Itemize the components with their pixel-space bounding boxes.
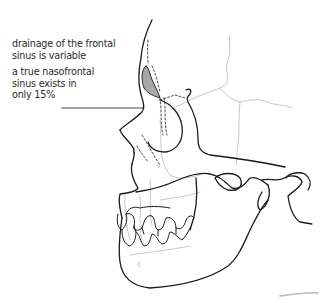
annotation-frontal-drainage: drainage of the frontal sinus is variabl…	[12, 38, 115, 61]
annotation-line: only 15%	[12, 89, 94, 101]
annotation-nasofrontal-sinus: a true nasofrontal sinus exists in only …	[12, 66, 94, 101]
annotation-line: drainage of the frontal	[12, 38, 115, 50]
annotation-line: sinus is variable	[12, 50, 115, 62]
annotation-line: a true nasofrontal	[12, 66, 94, 78]
annotation-line: sinus exists in	[12, 78, 94, 90]
teeth	[117, 207, 194, 247]
